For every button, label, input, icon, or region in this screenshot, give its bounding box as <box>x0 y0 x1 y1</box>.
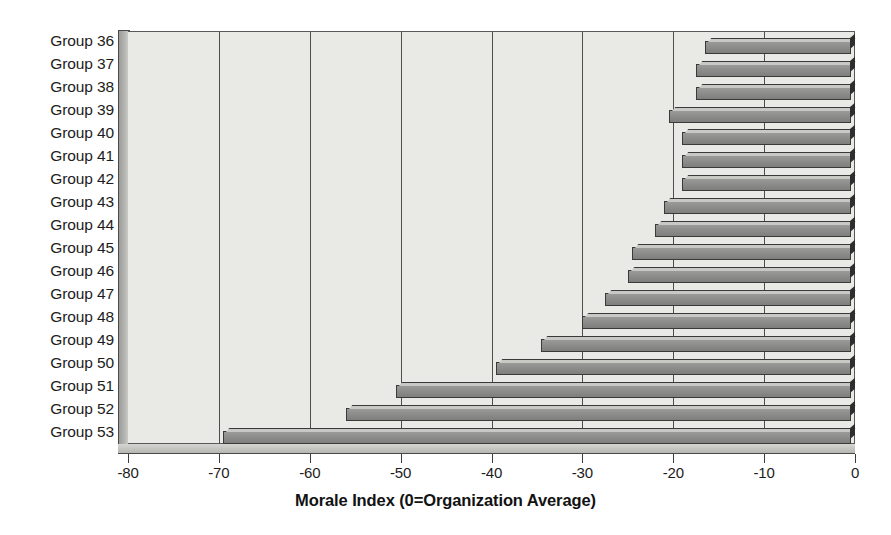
bar <box>682 132 851 145</box>
x-axis-tick <box>855 454 856 463</box>
bar <box>628 270 851 283</box>
bar <box>541 339 851 352</box>
x-axis-tick <box>492 454 493 463</box>
bar <box>696 64 851 77</box>
bar <box>682 178 851 191</box>
x-axis-tick-label: -20 <box>643 464 703 481</box>
y-axis-label: Group 43 <box>2 193 114 211</box>
y-axis-label: Group 46 <box>2 262 114 280</box>
x-axis-tick <box>673 454 674 463</box>
x-axis-tick-label: -80 <box>98 464 158 481</box>
bar <box>696 87 851 100</box>
x-axis-tick-label: -10 <box>734 464 794 481</box>
bar <box>582 316 851 329</box>
x-axis-tick <box>219 454 220 463</box>
bar <box>682 155 851 168</box>
bar <box>223 431 851 444</box>
gridline--70 <box>219 32 220 445</box>
bar <box>496 362 851 375</box>
y-axis-label: Group 48 <box>2 308 114 326</box>
x-axis-tick-label: -60 <box>280 464 340 481</box>
bar-chart: Group 36Group 37Group 38Group 39Group 40… <box>0 0 891 535</box>
y-axis-label: Group 44 <box>2 216 114 234</box>
x-axis-tick <box>582 454 583 463</box>
x-axis-tick-label: -40 <box>462 464 522 481</box>
y-axis-labels: Group 36Group 37Group 38Group 39Group 40… <box>0 0 114 535</box>
y-axis-label: Group 37 <box>2 55 114 73</box>
y-axis-label: Group 36 <box>2 32 114 50</box>
x-axis-3d-ledge <box>118 444 855 454</box>
x-axis-tick-label: 0 <box>825 464 885 481</box>
x-axis-tick-label: -30 <box>552 464 612 481</box>
bar <box>396 385 851 398</box>
bar <box>605 293 851 306</box>
y-axis-label: Group 47 <box>2 285 114 303</box>
y-axis-label: Group 45 <box>2 239 114 257</box>
x-axis-tick-label: -70 <box>189 464 249 481</box>
x-axis-tick <box>128 454 129 463</box>
bar <box>705 41 851 54</box>
bar <box>664 201 851 214</box>
x-axis-tick-label: -50 <box>371 464 431 481</box>
y-axis-label: Group 51 <box>2 377 114 395</box>
y-axis-label: Group 41 <box>2 147 114 165</box>
bar <box>669 110 851 123</box>
y-axis-label: Group 42 <box>2 170 114 188</box>
y-axis-label: Group 40 <box>2 124 114 142</box>
x-axis-title: Morale Index (0=Organization Average) <box>0 491 891 510</box>
y-axis-label: Group 49 <box>2 331 114 349</box>
plot-area <box>128 31 855 444</box>
bar <box>655 224 851 237</box>
x-axis-tick <box>401 454 402 463</box>
y-axis-label: Group 38 <box>2 78 114 96</box>
y-axis-label: Group 50 <box>2 354 114 372</box>
x-axis-tick <box>310 454 311 463</box>
y-axis-label: Group 52 <box>2 400 114 418</box>
bar <box>632 247 851 260</box>
x-axis-tick <box>764 454 765 463</box>
y-axis-label: Group 39 <box>2 101 114 119</box>
y-axis-label: Group 53 <box>2 423 114 441</box>
gridline--60 <box>310 32 311 445</box>
bar <box>346 408 851 421</box>
